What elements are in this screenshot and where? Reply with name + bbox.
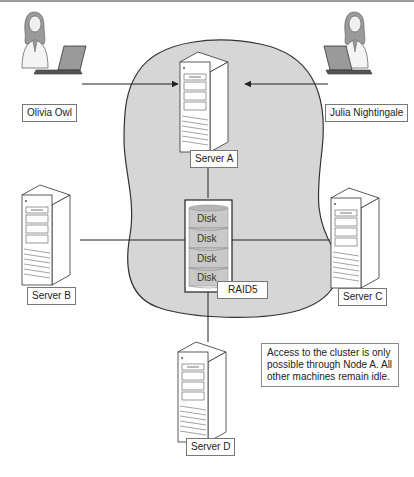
server-b-icon bbox=[22, 185, 70, 285]
server-a-label: Server A bbox=[190, 150, 238, 168]
disk-2-label: Disk bbox=[197, 233, 217, 244]
cluster-note: Access to the cluster is only possible t… bbox=[261, 343, 399, 387]
server-d-icon bbox=[178, 342, 226, 442]
server-b-label: Server B bbox=[27, 287, 76, 305]
raid-label: RAID5 bbox=[217, 281, 268, 299]
server-d-label: Server D bbox=[186, 438, 235, 456]
disk-3-label: Disk bbox=[197, 253, 217, 264]
disk-1-label: Disk bbox=[197, 213, 217, 224]
disk-4-label: Disk bbox=[197, 272, 217, 283]
server-c-label: Server C bbox=[338, 288, 387, 306]
user-label-julia: Julia Nightingale bbox=[325, 104, 408, 122]
olivia-woman-with-laptop-icon bbox=[22, 12, 86, 74]
user-label-olivia: Olivia Owl bbox=[22, 104, 77, 122]
server-c-icon bbox=[331, 188, 379, 288]
julia-woman-with-laptop-icon bbox=[324, 12, 372, 74]
server-a-icon bbox=[180, 52, 228, 152]
cluster-diagram: Disk Disk Disk Disk bbox=[0, 0, 414, 477]
